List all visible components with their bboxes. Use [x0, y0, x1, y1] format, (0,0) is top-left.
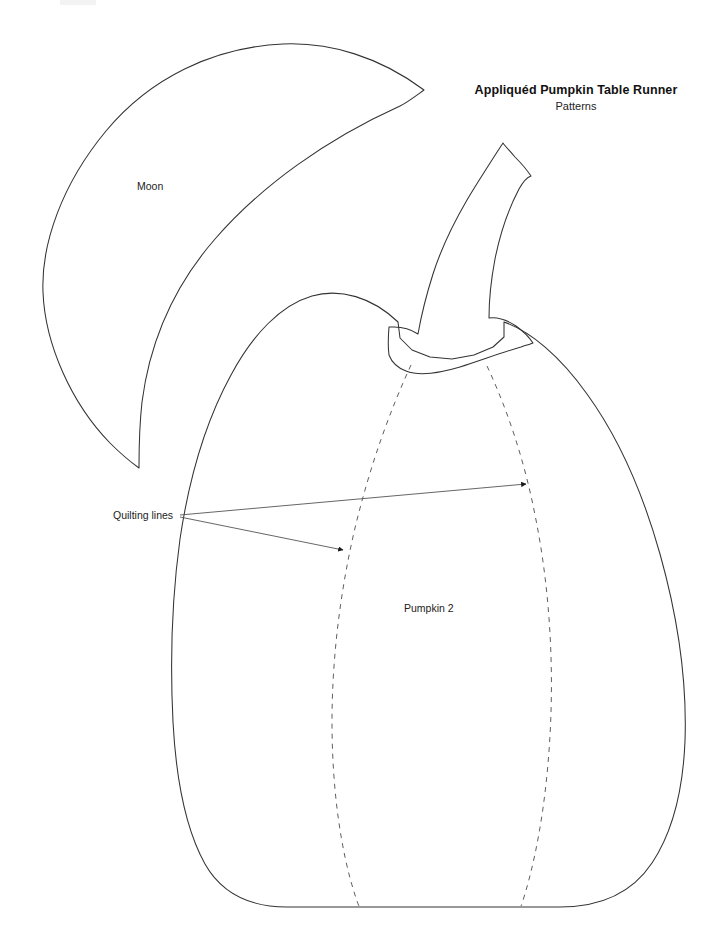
- quilting-leader-lower: [180, 517, 343, 550]
- quilting-line-right-shape: [487, 366, 551, 906]
- page-subtitle: Patterns: [432, 99, 720, 113]
- quilting-line-left-shape: [332, 365, 411, 906]
- quilting-lines-label: Quilting lines: [113, 509, 173, 521]
- moon-label: Moon: [137, 180, 163, 192]
- moon-shape: [43, 44, 424, 468]
- pumpkin-body-shape: [172, 293, 686, 907]
- title-block: Appliquéd Pumpkin Table Runner Patterns: [432, 83, 720, 113]
- page-title: Appliquéd Pumpkin Table Runner: [432, 83, 720, 98]
- pattern-drawing: [0, 0, 721, 933]
- pumpkin-stem-shape: [388, 143, 533, 374]
- pattern-sheet-page: Appliquéd Pumpkin Table Runner Patterns …: [0, 0, 721, 933]
- quilting-leader-upper: [180, 484, 526, 515]
- pumpkin-label: Pumpkin 2: [404, 602, 454, 614]
